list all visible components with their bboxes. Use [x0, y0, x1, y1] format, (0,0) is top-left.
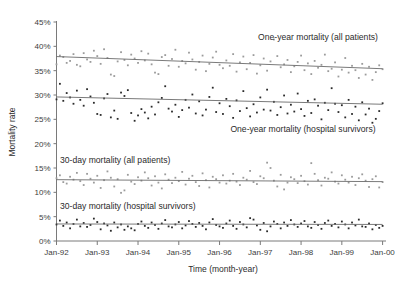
data-point	[242, 90, 244, 92]
data-point	[113, 222, 115, 224]
data-point	[372, 79, 374, 81]
data-point	[297, 226, 299, 228]
data-point	[222, 67, 224, 69]
data-point	[263, 177, 265, 179]
data-point	[378, 187, 380, 189]
y-tick-label: 20%	[34, 140, 50, 149]
data-point	[181, 227, 183, 229]
x-tick-label: Jan-00	[370, 248, 395, 257]
data-point	[110, 116, 112, 118]
data-point	[365, 226, 367, 228]
data-point	[222, 227, 224, 229]
data-point	[188, 52, 190, 54]
x-tick-label: Jan-96	[207, 248, 232, 257]
data-point	[154, 72, 156, 74]
data-point	[90, 61, 92, 63]
data-point	[297, 182, 299, 184]
data-point	[348, 99, 350, 101]
data-point	[151, 222, 153, 224]
data-point	[134, 229, 136, 231]
data-point	[225, 60, 227, 62]
data-point	[110, 230, 112, 232]
data-point	[297, 61, 299, 63]
data-point	[307, 184, 309, 186]
data-point	[338, 111, 340, 113]
data-point	[249, 116, 251, 118]
data-point	[331, 171, 333, 173]
data-point	[134, 183, 136, 185]
data-point	[266, 70, 268, 72]
data-point	[188, 178, 190, 180]
data-point	[358, 219, 360, 221]
data-point	[232, 53, 234, 55]
data-point	[304, 69, 306, 71]
data-point	[300, 55, 302, 57]
data-point	[171, 111, 173, 113]
data-point	[100, 228, 102, 230]
data-point	[181, 109, 183, 111]
data-point	[358, 177, 360, 179]
y-axis: 0%5%10%15%20%25%30%35%40%45%	[34, 18, 56, 246]
data-point	[154, 175, 156, 177]
data-point	[158, 228, 160, 230]
x-axis: Jan-92Jan-93Jan-94Jan-95Jan-96Jan-97Jan-…	[44, 241, 395, 257]
data-point	[253, 219, 255, 221]
data-point	[212, 87, 214, 89]
y-tick-label: 35%	[34, 67, 50, 76]
data-point	[188, 220, 190, 222]
data-point	[141, 108, 143, 110]
data-point	[232, 173, 234, 175]
data-point	[73, 103, 75, 105]
data-point	[76, 64, 78, 66]
data-point	[273, 221, 275, 223]
data-point	[290, 71, 292, 73]
data-point	[338, 76, 340, 78]
y-tick-label: 0%	[39, 237, 51, 246]
data-point	[259, 175, 261, 177]
data-point	[158, 73, 160, 75]
data-point	[56, 177, 58, 179]
data-point	[147, 53, 149, 55]
data-point	[372, 178, 374, 180]
data-point	[185, 184, 187, 186]
data-point	[164, 219, 166, 221]
data-point	[212, 57, 214, 59]
data-point	[56, 63, 58, 65]
data-point	[79, 99, 81, 101]
data-point	[83, 184, 85, 186]
data-point	[144, 112, 146, 114]
trend-lines-layer	[57, 57, 383, 225]
data-point	[191, 175, 193, 177]
y-tick-label: 15%	[34, 164, 50, 173]
data-point	[368, 186, 370, 188]
data-point	[222, 113, 224, 115]
data-point	[181, 171, 183, 173]
data-point	[327, 220, 329, 222]
data-point	[253, 54, 255, 56]
data-point	[310, 227, 312, 229]
data-point	[137, 62, 139, 64]
data-point	[232, 225, 234, 227]
data-point	[90, 178, 92, 180]
data-point	[124, 95, 126, 97]
data-point	[310, 162, 312, 164]
trend-line-2	[57, 180, 383, 182]
data-point	[147, 117, 149, 119]
data-point	[107, 225, 109, 227]
data-point	[321, 185, 323, 187]
data-point	[249, 217, 251, 219]
series-annotation-2: 30-day mortality (all patients)	[60, 155, 170, 165]
data-point	[195, 226, 197, 228]
y-tick-label: 30%	[34, 91, 50, 100]
data-point	[263, 58, 265, 60]
data-point	[365, 74, 367, 76]
data-point	[161, 188, 163, 190]
data-point	[314, 60, 316, 62]
data-point	[151, 106, 153, 108]
data-point	[239, 110, 241, 112]
data-point	[59, 83, 61, 85]
data-point	[76, 172, 78, 174]
data-point	[100, 63, 102, 65]
data-point	[344, 179, 346, 181]
y-tick-label: 45%	[34, 18, 50, 27]
